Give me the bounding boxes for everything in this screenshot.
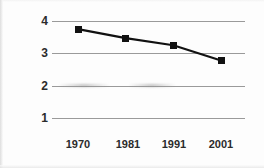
x-tick-label-1981: 1981	[107, 138, 149, 150]
data-point-2001	[218, 57, 225, 64]
line-chart: 4 3 2 1 1970 1981 1991 2001	[0, 0, 264, 168]
data-point-1970	[75, 26, 82, 33]
data-point-1981	[122, 35, 129, 42]
x-tick-label-1970: 1970	[57, 138, 99, 150]
data-point-1991	[170, 42, 177, 49]
x-tick-label-1991: 1991	[153, 138, 195, 150]
plot-area: 4 3 2 1 1970 1981 1991 2001	[0, 0, 264, 168]
x-tick-label-2001: 2001	[200, 138, 242, 150]
